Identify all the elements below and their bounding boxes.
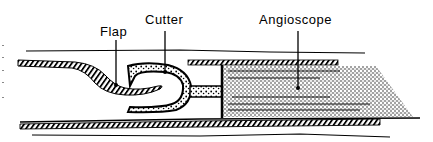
angioscope <box>222 66 413 117</box>
angioscope-label: Angioscope <box>259 13 332 26</box>
flap-label: Flap <box>100 25 127 38</box>
diagram-canvas <box>0 0 433 142</box>
cutter-shaft <box>190 86 223 97</box>
upper-wall-hatch <box>188 60 338 65</box>
cutter-label: Cutter <box>145 13 183 26</box>
left-edge-marks <box>2 45 4 98</box>
